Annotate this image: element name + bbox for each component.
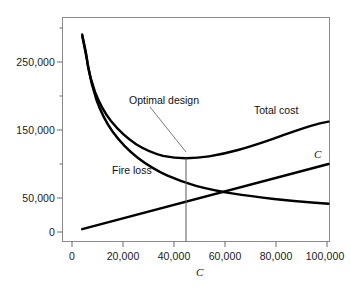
y-tick-label-150000: 150,000 [16, 124, 55, 136]
x-axis-ticks [72, 242, 327, 248]
x-axis-label: C [196, 266, 203, 278]
series-label-fire-loss: Fire loss [112, 164, 152, 176]
y-tick-label-0: 0 [49, 226, 55, 238]
x-tick-label-100000: 100,000 [306, 250, 345, 262]
chart-figure: 0 50,000 150,000 250,000 0 20,000 40,000… [0, 0, 350, 293]
x-tick-label-60000: 60,000 [209, 250, 242, 262]
y-tick-label-50000: 50,000 [22, 192, 55, 204]
optimal-design-annotation: Optimal design [129, 94, 199, 106]
x-tick-label-80000: 80,000 [260, 250, 293, 262]
x-tick-label-40000: 40,000 [158, 250, 191, 262]
series-label-total-cost: Total cost [254, 104, 298, 116]
series-label-c: C [314, 148, 321, 160]
y-tick-label-250000: 250,000 [16, 56, 55, 68]
y-axis-ticks [57, 28, 63, 232]
plot-frame [63, 18, 330, 242]
x-tick-label-20000: 20,000 [107, 250, 140, 262]
x-tick-label-0: 0 [69, 250, 75, 262]
